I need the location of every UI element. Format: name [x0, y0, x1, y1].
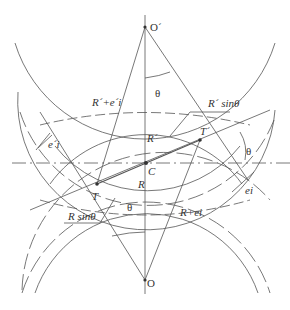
label-r-plus: R+ei [180, 207, 202, 218]
label-r: R [138, 179, 145, 190]
label-t-prime: T´ [200, 126, 210, 137]
label-r-sin: R sinθ [68, 211, 96, 222]
label-o-prime: O´ [150, 22, 162, 33]
point-tprime [198, 138, 202, 142]
theta-arc-top [145, 72, 170, 78]
lower-inner-arc [50, 135, 242, 184]
label-theta-top: θ [155, 88, 160, 99]
label-ei: ei [245, 185, 253, 196]
label-theta-bottom: θ [127, 202, 132, 213]
point-oprime [143, 25, 146, 28]
label-r-prime-plus: R´+e´i [92, 97, 121, 108]
label-theta-right: θ [246, 146, 251, 157]
label-e-prime-i: e´i [48, 139, 60, 150]
label-r-prime-sin: R´ sinθ [208, 98, 239, 109]
label-c: C [148, 166, 155, 177]
upper-dashed-arc [20, 112, 274, 205]
theta-arc-right [240, 132, 246, 160]
label-t: T [92, 191, 98, 202]
gear-meshing-diagram: O´ O θ θ θ R´+e´i R´ sinθ R´ T´ C e´i R … [0, 0, 290, 310]
label-o: O [147, 278, 155, 289]
line-of-action [97, 140, 200, 184]
point-t [95, 182, 99, 186]
label-r-prime: R´ [147, 133, 157, 144]
